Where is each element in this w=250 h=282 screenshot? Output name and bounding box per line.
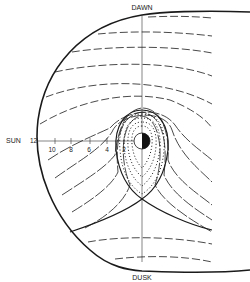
tick-label-2: 2 (122, 146, 126, 153)
earth (134, 133, 150, 149)
dawn-flow-lines (40, 16, 212, 128)
tick-label-12: 12 (30, 137, 38, 144)
magnetosphere-convection-diagram: DAWN DUSK SUN 12 10 8 6 4 2 (0, 0, 250, 282)
tick-label-10: 10 (48, 146, 56, 153)
tick-label-8: 8 (69, 146, 73, 153)
dusk-label: DUSK (132, 274, 152, 281)
sun-label: SUN (6, 137, 21, 144)
separatrix (70, 110, 212, 232)
tick-label-4: 4 (105, 146, 109, 153)
dusk-flow-lines (88, 238, 212, 262)
dawn-label: DAWN (131, 4, 152, 11)
tick-label-6: 6 (87, 146, 91, 153)
inner-flow-lines (48, 108, 212, 232)
